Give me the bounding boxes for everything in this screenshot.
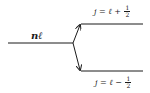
arrow-up-icon xyxy=(73,25,80,43)
lower-frac-denominator: 2 xyxy=(125,83,131,89)
upper-level-label: j = ℓ + 1 2 xyxy=(94,5,130,18)
upper-frac-denominator: 2 xyxy=(124,12,130,18)
upper-level-fraction: 1 2 xyxy=(124,5,130,18)
arrow-down-icon xyxy=(73,43,80,70)
parent-level-label: nℓ xyxy=(31,31,43,41)
upper-level-prefix: j = ℓ + xyxy=(94,7,121,16)
lower-level-label: j = ℓ − 1 2 xyxy=(95,76,131,89)
lower-level-fraction: 1 2 xyxy=(125,76,131,89)
energy-level-diagram: nℓ j = ℓ + 1 2 j = ℓ − 1 2 xyxy=(0,0,150,93)
lower-level-prefix: j = ℓ − xyxy=(95,78,122,87)
